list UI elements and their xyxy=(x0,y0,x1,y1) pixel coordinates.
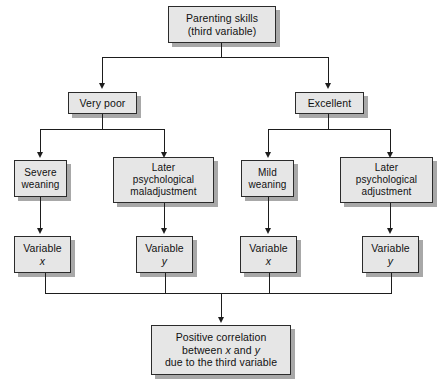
connector-mild-to-variable-x xyxy=(268,197,269,228)
node-very-poor: Very poor xyxy=(68,92,137,114)
node-later-adjustment-label: Laterpsychologicaladjustment xyxy=(352,162,421,197)
node-variable-x-right-label: Variablex xyxy=(245,242,292,267)
conclusion-line2-mid: and xyxy=(231,344,255,356)
arrow-to-variable-x-left xyxy=(37,228,43,234)
arrow-to-very-poor xyxy=(99,83,105,89)
var1-symbol: x xyxy=(40,255,45,267)
mild-line1: Mild xyxy=(258,167,277,178)
connector-level1-drop-left xyxy=(102,57,103,83)
node-parenting-skills-label: Parenting skills(third variable) xyxy=(182,12,262,37)
severe-line2: weaning xyxy=(22,179,60,190)
connector-root-stem xyxy=(221,43,222,57)
node-mild-weaning: Mildweaning xyxy=(241,160,294,197)
connector-level2-drop-adj xyxy=(390,129,391,152)
connector-level2-drop-severe xyxy=(40,129,41,152)
connector-collector-bus xyxy=(45,293,392,294)
node-variable-x-right: Variablex xyxy=(240,236,297,273)
mild-line2: weaning xyxy=(249,179,287,190)
connector-severe-to-variable-x xyxy=(40,197,41,228)
node-variable-y-left-label: Variabley xyxy=(141,242,188,267)
arrow-to-mild-weaning xyxy=(265,152,271,158)
var3-line1: Variable xyxy=(249,242,288,254)
connector-var4-down xyxy=(391,273,392,293)
var4-line1: Variable xyxy=(371,242,410,254)
root-line2: (third variable) xyxy=(188,25,257,37)
maladj-line3: maladjustment xyxy=(130,186,196,197)
maladj-line2: psychological xyxy=(133,174,194,185)
node-severe-weaning-label: Severeweaning xyxy=(18,167,64,191)
var1-line1: Variable xyxy=(23,242,62,254)
connector-level2-bus-right xyxy=(268,129,390,130)
connector-level1-drop-right xyxy=(328,57,329,83)
var2-symbol: y xyxy=(162,255,167,267)
node-severe-weaning: Severeweaning xyxy=(14,160,67,197)
node-variable-y-right: Variabley xyxy=(362,236,419,273)
arrow-to-excellent xyxy=(325,83,331,89)
node-later-maladjustment-label: Laterpsychologicalmaladjustment xyxy=(126,162,200,197)
node-variable-x-left-label: Variablex xyxy=(19,242,66,267)
connector-level2-drop-mild xyxy=(268,129,269,152)
var3-symbol: x xyxy=(266,255,271,267)
node-excellent-label: Excellent xyxy=(304,97,356,109)
conclusion-line2-y: y xyxy=(255,344,260,356)
maladj-line1: Later xyxy=(152,162,175,173)
connector-very-poor-stem xyxy=(102,114,103,129)
connector-maladj-to-variable-y xyxy=(164,203,165,228)
node-variable-x-left: Variablex xyxy=(14,236,71,273)
arrow-to-variable-y-left xyxy=(161,228,167,234)
var2-line1: Variable xyxy=(145,242,184,254)
connector-excellent-stem xyxy=(328,114,329,129)
node-very-poor-label: Very poor xyxy=(76,97,130,109)
arrow-to-severe-weaning xyxy=(37,152,43,158)
adj-line1: Later xyxy=(375,162,398,173)
connector-level2-drop-maladj xyxy=(164,129,165,152)
node-excellent: Excellent xyxy=(295,92,364,114)
conclusion-line2: between x and y xyxy=(182,344,260,356)
connector-adj-to-variable-y xyxy=(390,203,391,228)
excellent-text: Excellent xyxy=(308,97,352,109)
node-later-psychological-maladjustment: Laterpsychologicalmaladjustment xyxy=(113,157,214,203)
conclusion-line2-pre: between xyxy=(182,344,225,356)
root-line1: Parenting skills xyxy=(186,12,258,24)
var4-symbol: y xyxy=(388,255,393,267)
arrow-to-conclusion xyxy=(218,317,224,323)
arrow-to-variable-y-right xyxy=(387,228,393,234)
node-parenting-skills: Parenting skills(third variable) xyxy=(168,6,276,43)
very-poor-text: Very poor xyxy=(80,97,126,109)
severe-line1: Severe xyxy=(24,167,56,178)
adj-line2: psychological xyxy=(356,174,417,185)
node-conclusion-label: Positive correlationbetween x and ydue t… xyxy=(161,331,281,368)
connector-var3-down xyxy=(269,273,270,293)
connector-var2-down xyxy=(165,273,166,293)
node-mild-weaning-label: Mildweaning xyxy=(245,167,291,191)
adj-line3: adjustment xyxy=(362,186,412,197)
connector-level2-bus-left xyxy=(40,129,164,130)
conclusion-line3: due to the third variable xyxy=(165,356,277,368)
connector-bus-to-conclusion xyxy=(221,293,222,317)
node-conclusion: Positive correlationbetween x and ydue t… xyxy=(151,325,291,375)
conclusion-line1: Positive correlation xyxy=(176,331,267,343)
connector-level1-bus xyxy=(102,57,328,58)
arrow-to-variable-x-right xyxy=(265,228,271,234)
node-later-psychological-adjustment: Laterpsychologicaladjustment xyxy=(340,157,433,203)
diagram-canvas: Parenting skills(third variable) Very po… xyxy=(0,0,441,382)
connector-var1-down xyxy=(45,273,46,293)
node-variable-y-left: Variabley xyxy=(136,236,193,273)
node-variable-y-right-label: Variabley xyxy=(367,242,414,267)
